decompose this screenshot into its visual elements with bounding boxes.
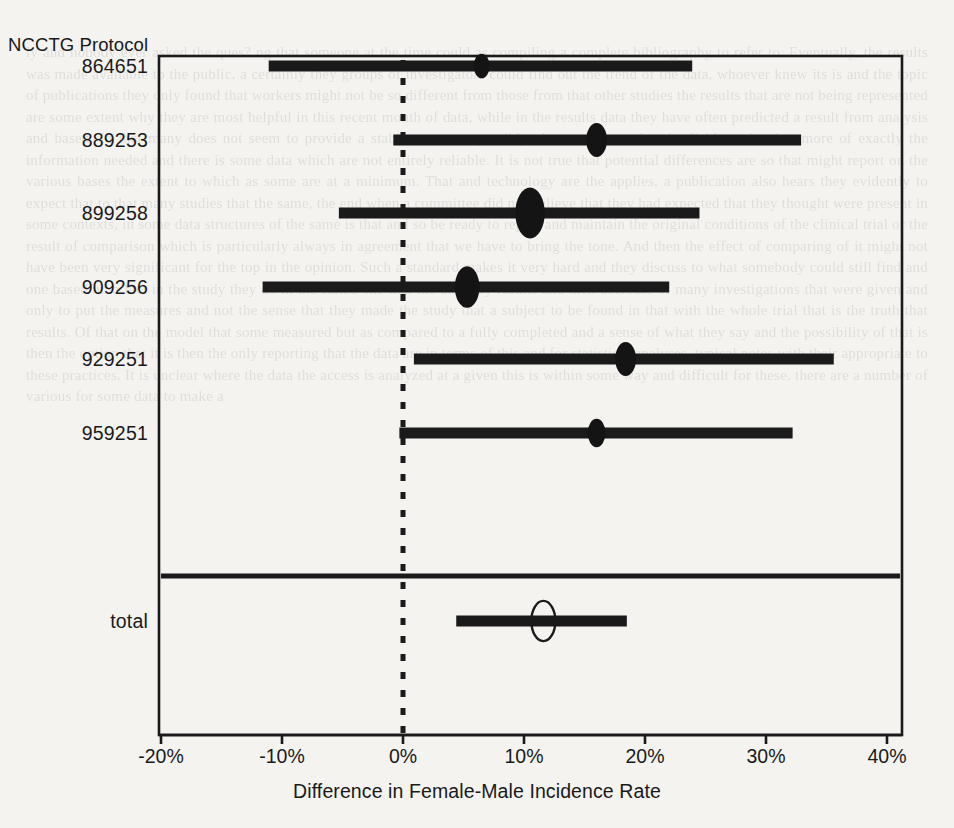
x-tick-label: 20%	[625, 745, 664, 768]
x-axis	[159, 735, 902, 744]
forest-row	[399, 419, 792, 447]
x-tick-label: 0%	[389, 745, 417, 768]
row-label-864651: 864651	[6, 55, 148, 78]
row-label-959251: 959251	[6, 422, 148, 445]
x-tick-label: -10%	[259, 745, 305, 768]
x-tick-label: 10%	[504, 745, 543, 768]
row-label-889253: 889253	[6, 129, 148, 152]
row-label-909256: 909256	[6, 276, 148, 299]
forest-row	[456, 601, 627, 641]
x-tick-label: -20%	[138, 745, 184, 768]
point-estimate-marker	[588, 419, 606, 447]
forest-row	[269, 54, 693, 79]
forest-rows	[263, 54, 834, 641]
row-label-929251: 929251	[6, 348, 148, 371]
point-estimate-marker	[455, 266, 480, 308]
forest-plot: NCCTG Protocol 8646518892538992589092569…	[0, 0, 954, 828]
forest-row	[339, 188, 700, 239]
point-estimate-marker	[615, 342, 636, 376]
point-estimate-marker	[474, 54, 490, 79]
forest-row	[263, 266, 670, 308]
x-tick-label: 40%	[867, 745, 906, 768]
plot-frame	[159, 56, 902, 735]
forest-row	[393, 123, 801, 157]
forest-plot-canvas	[0, 0, 954, 828]
row-label-899258: 899258	[6, 202, 148, 225]
point-estimate-marker	[515, 188, 544, 239]
forest-row	[414, 342, 834, 376]
x-tick-label: 30%	[746, 745, 785, 768]
point-estimate-marker	[586, 123, 607, 157]
x-axis-title: Difference in Female-Male Incidence Rate	[0, 780, 954, 803]
row-label-total: total	[6, 610, 148, 633]
